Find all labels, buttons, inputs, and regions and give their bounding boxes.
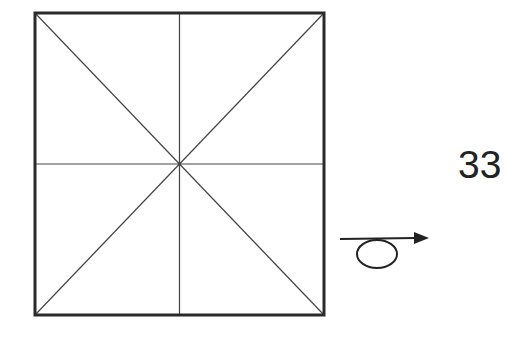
loop-arrow-right-icon — [340, 232, 429, 268]
folding-diagram — [0, 0, 509, 343]
square-with-creases — [35, 13, 324, 315]
step-number-label: 33 — [458, 145, 501, 184]
